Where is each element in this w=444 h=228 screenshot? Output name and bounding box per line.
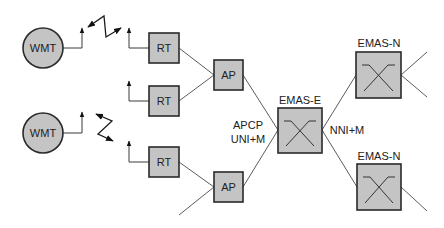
antenna-rt3: [129, 141, 149, 162]
rt-node-2[interactable]: RT: [149, 86, 179, 116]
emas-e-label: EMAS-E: [279, 94, 321, 106]
emas-e-node[interactable]: EMAS-E: [278, 94, 322, 153]
radio-link-icon: [88, 16, 121, 37]
wmt-node-2[interactable]: WMT: [23, 113, 63, 153]
link-emas-e-emas-n1: [322, 75, 356, 130]
antenna-rt1: [129, 28, 149, 48]
interface-label-uni: UNI+M: [231, 133, 266, 145]
rt-label: RT: [157, 42, 172, 54]
link-rt1-ap1: [179, 48, 214, 75]
rt-node-1[interactable]: RT: [149, 33, 179, 63]
radio-link-icon: [96, 114, 113, 141]
wmt-label: WMT: [30, 42, 57, 54]
emas-n-label: EMAS-N: [358, 37, 401, 49]
interface-label-nni: NNI+M: [330, 124, 365, 136]
interface-label-apcp: APCP: [233, 119, 263, 131]
radio-links: [88, 16, 121, 141]
link-emas-n1-out-up: [401, 52, 427, 75]
network-diagram: WMT WMT RT RT RT AP AP EMAS-E EMAS-N: [0, 0, 444, 228]
ap-node-1[interactable]: AP: [214, 60, 243, 90]
antenna-rt2: [129, 81, 149, 101]
link-rt3-ap2: [179, 162, 214, 187]
link-emas-n1-out-down: [401, 75, 427, 97]
link-rt2-ap1: [179, 75, 214, 101]
antennas: [63, 28, 149, 162]
ap-label: AP: [221, 69, 236, 81]
antenna-wmt1: [63, 28, 82, 48]
rt-label: RT: [157, 95, 172, 107]
emas-n-node-2[interactable]: EMAS-N: [357, 150, 401, 210]
link-emas-e-emas-n2: [322, 130, 357, 187]
rt-node-3[interactable]: RT: [149, 147, 179, 177]
emas-n-label: EMAS-N: [358, 150, 401, 162]
wmt-label: WMT: [30, 127, 57, 139]
wmt-node-1[interactable]: WMT: [23, 28, 63, 68]
ap-label: AP: [221, 181, 236, 193]
antenna-wmt2: [63, 112, 82, 133]
link-ap2-out: [179, 187, 214, 215]
ap-node-2[interactable]: AP: [214, 172, 243, 202]
rt-label: RT: [157, 156, 172, 168]
emas-n-node-1[interactable]: EMAS-N: [356, 37, 401, 98]
link-emas-n2-out: [401, 187, 427, 211]
